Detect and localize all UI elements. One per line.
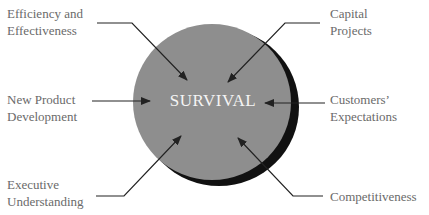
factor-capital: Capital Projects bbox=[330, 5, 372, 39]
factor-line: Efficiency and bbox=[7, 5, 83, 22]
factor-efficiency: Efficiency and Effectiveness bbox=[7, 5, 83, 39]
factor-line: New Product bbox=[7, 91, 77, 108]
factor-line: Development bbox=[7, 108, 77, 125]
factor-executive: Executive Understanding bbox=[7, 176, 84, 210]
factor-line: Expectations bbox=[330, 108, 397, 125]
factor-line: Understanding bbox=[7, 193, 84, 210]
factor-new-product: New Product Development bbox=[7, 91, 77, 125]
factor-line: Effectiveness bbox=[7, 22, 83, 39]
factor-line: Capital bbox=[330, 5, 372, 22]
factor-line: Projects bbox=[330, 22, 372, 39]
factor-competitiveness: Competitiveness bbox=[330, 188, 417, 205]
factor-line: Competitiveness bbox=[330, 188, 417, 205]
survival-label: SURVIVAL bbox=[150, 91, 276, 111]
factor-line: Executive bbox=[7, 176, 84, 193]
factor-line: Customers’ bbox=[330, 91, 397, 108]
factor-customers: Customers’ Expectations bbox=[330, 91, 397, 125]
